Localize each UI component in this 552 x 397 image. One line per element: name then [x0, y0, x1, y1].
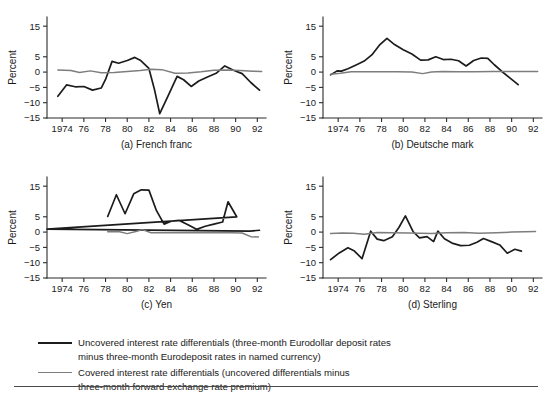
x-tick-label: 80: [122, 123, 133, 134]
x-tick-label: 90: [506, 283, 517, 294]
x-tick-label: 90: [230, 283, 241, 294]
x-tick-label: 88: [209, 283, 220, 294]
footer-divider: [14, 386, 538, 387]
y-tick-label: −15: [24, 112, 40, 123]
x-tick-label: 84: [441, 123, 452, 134]
x-tick-label: 78: [100, 123, 111, 134]
x-tick-label: 84: [441, 283, 452, 294]
x-tick-label: 80: [398, 123, 409, 134]
x-tick-label: 84: [165, 123, 176, 134]
y-axis-title: Percent: [7, 50, 18, 85]
chart-panel-yen: 1550−5−10−151974767880828486889092Percen…: [0, 160, 276, 320]
panel-caption-yen: (c) Yen: [141, 299, 172, 310]
x-tick-label: 76: [79, 283, 90, 294]
x-tick-label: 82: [144, 123, 155, 134]
y-tick-label: 15: [305, 21, 316, 32]
y-tick-label: 15: [29, 21, 40, 32]
x-tick-label: 86: [187, 283, 198, 294]
x-tick-label: 84: [165, 283, 176, 294]
x-tick-label: 76: [355, 283, 366, 294]
legend-swatch-uncovered-wrap: [38, 336, 78, 344]
y-tick-label: 0: [311, 226, 316, 237]
panel-caption-deutsche-mark: (b) Deutsche mark: [391, 139, 474, 150]
y-tick-label: −10: [300, 257, 316, 268]
y-tick-label: 5: [311, 211, 316, 222]
series-line-covered: [331, 231, 536, 234]
chart-panel-french-franc: 1550−5−10−151974767880828486889092Percen…: [0, 0, 276, 160]
y-tick-label: −5: [29, 82, 40, 93]
series-line-uncovered: [58, 57, 260, 113]
legend-label-uncovered: Uncovered interest rate differentials (t…: [78, 336, 391, 363]
legend-swatch-covered-line-icon: [38, 372, 72, 373]
x-tick-label: 92: [252, 123, 263, 134]
x-tick-label: 78: [100, 283, 111, 294]
x-tick-label: 90: [506, 123, 517, 134]
y-tick-label: 0: [311, 66, 316, 77]
x-tick-label: 86: [463, 123, 474, 134]
x-tick-label: 88: [485, 123, 496, 134]
x-tick-label: 82: [420, 283, 431, 294]
y-tick-label: −15: [300, 112, 316, 123]
x-tick-label: 92: [252, 283, 263, 294]
y-tick-label: 5: [35, 51, 40, 62]
legend-swatch-covered-wrap: [38, 366, 78, 373]
y-axis-title: Percent: [283, 50, 294, 85]
x-tick-label: 76: [355, 123, 366, 134]
y-tick-label: −15: [300, 272, 316, 283]
y-tick-label: −10: [24, 257, 40, 268]
x-tick-label: 80: [122, 283, 133, 294]
legend-entry-uncovered: Uncovered interest rate differentials (t…: [38, 336, 391, 363]
y-tick-label: −5: [29, 242, 40, 253]
legend-entry-covered: Covered interest rate differentials (unc…: [38, 366, 350, 393]
x-tick-label: 80: [398, 283, 409, 294]
x-tick-label: 76: [79, 123, 90, 134]
y-tick-label: 15: [29, 181, 40, 192]
x-tick-label: 1974: [328, 283, 349, 294]
series-line-covered: [58, 69, 262, 73]
y-tick-label: 15: [305, 181, 316, 192]
y-tick-label: −5: [305, 82, 316, 93]
panel-caption-sterling: (d) Sterling: [408, 299, 457, 310]
x-tick-label: 78: [376, 123, 387, 134]
y-tick-label: 0: [35, 226, 40, 237]
x-tick-label: 86: [463, 283, 474, 294]
x-tick-label: 82: [144, 283, 155, 294]
chart-panel-deutsche-mark: 1550−5−10−151974767880828486889092Percen…: [276, 0, 552, 160]
x-tick-label: 92: [528, 123, 539, 134]
series-line-uncovered: [331, 38, 519, 84]
legend-label-covered: Covered interest rate differentials (unc…: [78, 366, 350, 393]
x-tick-label: 86: [187, 123, 198, 134]
y-tick-label: 5: [35, 211, 40, 222]
y-tick-label: −10: [300, 97, 316, 108]
chart-panel-sterling: 1550−5−10−151974767880828486889092Percen…: [276, 160, 552, 320]
x-tick-label: 82: [420, 123, 431, 134]
panel-caption-french-franc: (a) French franc: [121, 139, 192, 150]
x-tick-label: 1974: [52, 283, 73, 294]
x-tick-label: 78: [376, 283, 387, 294]
x-tick-label: 1974: [52, 123, 73, 134]
legend-swatch-uncovered-line-icon: [38, 342, 72, 344]
y-tick-label: 5: [311, 51, 316, 62]
x-tick-label: 88: [485, 283, 496, 294]
series-line-covered: [331, 71, 538, 74]
x-tick-label: 90: [230, 123, 241, 134]
series-line-uncovered: [47, 190, 260, 231]
y-axis-title: Percent: [7, 210, 18, 245]
x-tick-label: 1974: [328, 123, 349, 134]
y-tick-label: −10: [24, 97, 40, 108]
x-tick-label: 88: [209, 123, 220, 134]
series-line-uncovered: [331, 216, 522, 260]
y-tick-label: −15: [24, 272, 40, 283]
y-tick-label: −5: [305, 242, 316, 253]
y-tick-label: 0: [35, 66, 40, 77]
y-axis-title: Percent: [283, 210, 294, 245]
x-tick-label: 92: [528, 283, 539, 294]
